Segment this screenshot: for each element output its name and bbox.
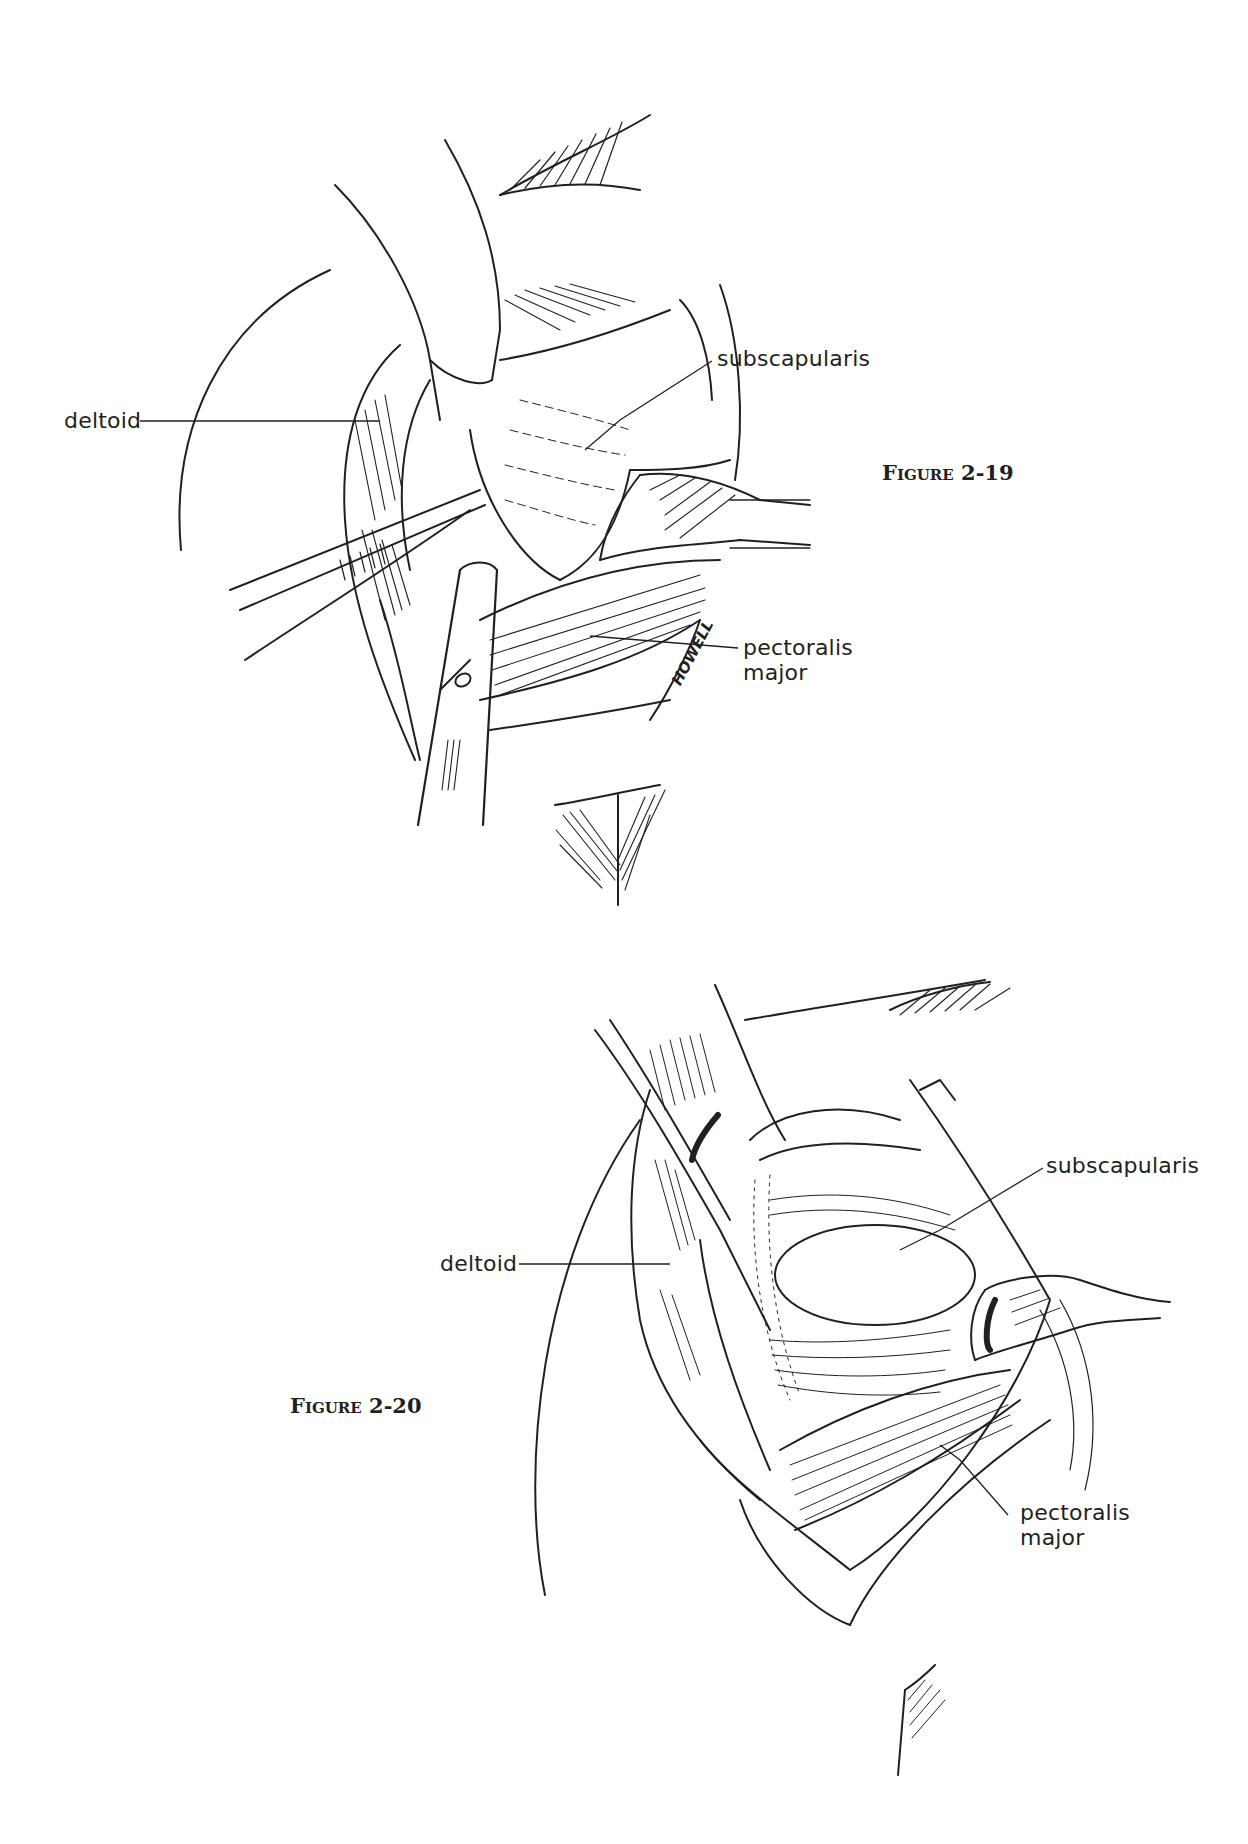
figure-2-20-illustration (0, 0, 1248, 1844)
label-pectoralis-2-20-line1: pectoralis (1020, 1500, 1130, 1526)
label-pectoralis-2-20-line2: major (1020, 1525, 1085, 1551)
anatomy-page: deltoid subscapularis pectoralis major F… (0, 0, 1248, 1844)
leader-lines-2-20 (519, 1168, 1043, 1515)
figure-caption-2-20: Figure 2-20 (290, 1393, 422, 1418)
label-subscapularis-2-20: subscapularis (1046, 1153, 1199, 1179)
label-deltoid-2-20: deltoid (440, 1251, 517, 1277)
